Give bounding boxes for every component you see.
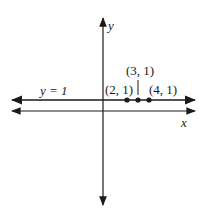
coordinate-diagram: y x y = 1 (2, 1) (3, 1) (4, 1) — [0, 0, 210, 222]
point-label-3-1: (3, 1) — [126, 63, 154, 78]
point-4-1 — [146, 97, 151, 102]
y-axis-label: y — [106, 18, 114, 33]
point-2-1 — [124, 97, 129, 102]
x-axis-label: x — [180, 115, 187, 130]
point-label-4-1: (4, 1) — [149, 82, 177, 97]
point-label-2-1: (2, 1) — [105, 82, 133, 97]
line-label: y = 1 — [38, 83, 68, 98]
point-3-1 — [135, 97, 140, 102]
